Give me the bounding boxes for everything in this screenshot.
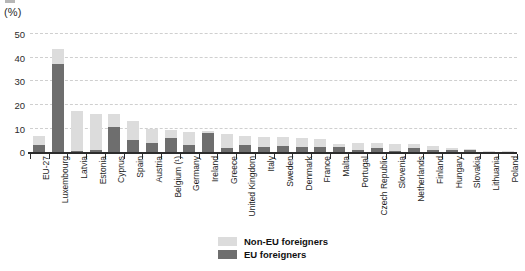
y-tick-label: 50 <box>14 28 25 39</box>
y-tick-label: 20 <box>14 100 25 111</box>
x-label-slot: Austria <box>142 156 161 228</box>
x-label-slot: Belgium (¹) <box>161 156 180 228</box>
bar-slot[interactable] <box>367 28 386 152</box>
bar-slot[interactable] <box>67 28 86 152</box>
stacked-bar[interactable] <box>108 114 120 152</box>
stacked-bar-chart: (%) 01020304050 EU-27LuxembourgLatviaEst… <box>0 0 525 271</box>
bar-segment-non-eu <box>71 111 83 152</box>
stacked-bar[interactable] <box>146 129 158 152</box>
stacked-bar[interactable] <box>352 143 364 152</box>
stacked-bar[interactable] <box>239 136 251 152</box>
bar-slot[interactable] <box>442 28 461 152</box>
x-label-slot: Czech Republic <box>367 156 386 228</box>
x-label-slot: Estonia <box>86 156 105 228</box>
x-label-slot: Ireland <box>199 156 218 228</box>
legend-label-non_eu: Non-EU foreigners <box>244 236 328 247</box>
bar-segment-non-eu <box>165 130 177 138</box>
stacked-bar[interactable] <box>371 143 383 152</box>
x-label-slot: Luxembourg <box>49 156 68 228</box>
stacked-bar[interactable] <box>314 139 326 152</box>
bar-slot[interactable] <box>405 28 424 152</box>
chart-legend: Non-EU foreignersEU foreigners <box>218 236 328 260</box>
stacked-bar[interactable] <box>408 144 420 152</box>
bar-slot[interactable] <box>274 28 293 152</box>
bar-segment-eu <box>108 127 120 152</box>
bar-segment-non-eu <box>90 114 102 150</box>
cropped-top-element <box>5 0 15 3</box>
bar-slot[interactable] <box>461 28 480 152</box>
bar-slot[interactable] <box>330 28 349 152</box>
bar-slot[interactable] <box>292 28 311 152</box>
bar-slot[interactable] <box>199 28 218 152</box>
legend-item-eu[interactable]: EU foreigners <box>218 249 328 260</box>
stacked-bar[interactable] <box>296 138 308 152</box>
stacked-bar[interactable] <box>333 144 345 152</box>
stacked-bar[interactable] <box>33 136 45 152</box>
x-label-slot: United Kingdom <box>236 156 255 228</box>
bar-segment-eu <box>165 138 177 152</box>
bar-segment-eu <box>146 143 158 152</box>
bar-segment-non-eu <box>127 121 139 140</box>
bar-segment-eu <box>202 133 214 152</box>
bar-segment-non-eu <box>221 134 233 149</box>
bar-slot[interactable] <box>236 28 255 152</box>
x-label-slot: France <box>311 156 330 228</box>
stacked-bar[interactable] <box>165 130 177 152</box>
x-label-slot: Slovakia <box>461 156 480 228</box>
bar-segment-eu <box>239 145 251 152</box>
x-label-slot: Slovenia <box>386 156 405 228</box>
bar-segment-non-eu <box>146 129 158 143</box>
y-axis-unit-label: (%) <box>4 6 22 18</box>
bar-segment-non-eu <box>33 136 45 145</box>
x-label-slot: Malta <box>330 156 349 228</box>
x-label-slot: Netherlands <box>405 156 424 228</box>
bar-segment-non-eu <box>314 139 326 147</box>
stacked-bar[interactable] <box>127 121 139 152</box>
stacked-bar[interactable] <box>221 134 233 152</box>
bar-slot[interactable] <box>311 28 330 152</box>
stacked-bar[interactable] <box>71 111 83 152</box>
bar-segment-non-eu <box>296 138 308 147</box>
bar-slot[interactable] <box>498 28 517 152</box>
x-label-slot: Hungary <box>442 156 461 228</box>
x-label-slot: Poland <box>498 156 517 228</box>
bar-segment-non-eu <box>183 132 195 145</box>
bar-slot[interactable] <box>142 28 161 152</box>
bar-segment-non-eu <box>352 143 364 150</box>
bar-slot[interactable] <box>480 28 499 152</box>
x-label-slot: Italy <box>255 156 274 228</box>
bar-segment-non-eu <box>52 49 64 63</box>
bar-segment-non-eu <box>258 137 270 147</box>
stacked-bar[interactable] <box>183 132 195 153</box>
bar-slot[interactable] <box>161 28 180 152</box>
bar-segment-non-eu <box>239 136 251 144</box>
stacked-bar[interactable] <box>52 49 64 152</box>
bar-slot[interactable] <box>180 28 199 152</box>
legend-swatch-non_eu <box>218 237 237 246</box>
bar-slot[interactable] <box>423 28 442 152</box>
bar-segment-eu <box>52 64 64 152</box>
x-label-slot: Denmark <box>292 156 311 228</box>
bar-segment-eu <box>33 145 45 152</box>
bar-slot[interactable] <box>124 28 143 152</box>
bar-slot[interactable] <box>386 28 405 152</box>
bar-slot[interactable] <box>105 28 124 152</box>
stacked-bar[interactable] <box>277 137 289 152</box>
legend-item-non_eu[interactable]: Non-EU foreigners <box>218 236 328 247</box>
stacked-bar[interactable] <box>258 137 270 152</box>
stacked-bar[interactable] <box>389 144 401 152</box>
x-label-slot: Lithuania <box>480 156 499 228</box>
bar-slot[interactable] <box>217 28 236 152</box>
x-label-slot: Finland <box>423 156 442 228</box>
stacked-bar[interactable] <box>90 114 102 152</box>
bar-slot[interactable] <box>49 28 68 152</box>
bar-slot[interactable] <box>86 28 105 152</box>
y-tick-label: 0 <box>20 147 25 158</box>
bar-slot[interactable] <box>255 28 274 152</box>
stacked-bar[interactable] <box>202 131 214 152</box>
bar-slot[interactable] <box>348 28 367 152</box>
x-label-slot: Portugal <box>348 156 367 228</box>
plot-area: 01020304050 <box>30 28 517 152</box>
x-axis-label: Poland <box>511 156 520 182</box>
bar-slot[interactable] <box>30 28 49 152</box>
